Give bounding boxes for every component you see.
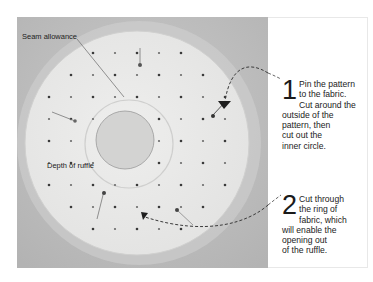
pin-dot — [224, 184, 227, 187]
pin-dot — [136, 184, 139, 187]
step-2-line: Cut through — [299, 194, 344, 204]
pin-dot — [202, 74, 205, 77]
pin-icon — [175, 208, 179, 212]
pin-dot — [158, 184, 160, 186]
pin-dot — [114, 184, 116, 186]
step-2-line: of the ruffle. — [282, 245, 327, 255]
step-1-line: inner circle. — [282, 141, 326, 151]
pin-dot — [158, 96, 160, 98]
step-1-line: cut out the — [282, 130, 322, 140]
pin-dot — [180, 140, 183, 143]
pin-dot — [180, 162, 182, 164]
pin-dot — [158, 162, 161, 165]
pin-dot — [158, 118, 161, 121]
pin-dot — [158, 206, 161, 209]
step-1-line: to the fabric. — [299, 89, 346, 99]
pin-dot — [136, 228, 139, 231]
pin-dot — [92, 206, 94, 208]
pin-icon — [138, 63, 142, 67]
pin-dot — [136, 96, 139, 99]
pin-dot — [202, 206, 205, 209]
seam-allowance-label: Seam allowance — [22, 32, 77, 41]
pin-icon — [102, 191, 106, 195]
pin-dot — [180, 74, 182, 76]
step-1-line: pattern, then — [282, 120, 330, 130]
pin-dot — [114, 74, 117, 77]
step-2-line: will enable the — [282, 225, 336, 235]
instruction-figure: Seam allowance Depth of ruffle 1 Pin the… — [17, 17, 369, 268]
pin-dot — [180, 228, 183, 231]
pin-dot — [92, 184, 95, 187]
pin-dot — [92, 228, 95, 231]
pin-dot — [224, 118, 226, 120]
step-2: 2 Cut through the ring of fabric, which … — [282, 194, 368, 256]
pin-dot — [48, 96, 51, 99]
pattern-illustration — [17, 17, 268, 268]
pin-dot — [180, 184, 183, 187]
step-2-line: opening out — [282, 235, 327, 245]
pin-dot — [224, 140, 227, 143]
step-2-line: fabric, which — [299, 215, 347, 225]
pin-dot — [136, 206, 138, 208]
pin-dot — [70, 140, 72, 142]
pin-dot — [202, 96, 204, 98]
pin-dot — [202, 118, 205, 121]
pin-dot — [180, 96, 183, 99]
pin-dot — [136, 74, 138, 76]
pin-dot — [180, 118, 182, 120]
pin-dot — [114, 96, 116, 98]
pin-dot — [48, 184, 51, 187]
pin-dot — [70, 206, 73, 209]
pin-dot — [48, 118, 50, 120]
pin-dot — [202, 140, 204, 142]
pin-dot — [92, 96, 95, 99]
pin-dot — [92, 118, 94, 120]
pin-dot — [224, 162, 226, 164]
pin-dot — [158, 74, 161, 77]
step-1-line: Cut around the — [299, 100, 356, 110]
pin-icon — [211, 114, 215, 118]
pin-dot — [70, 74, 73, 77]
pin-dot — [114, 228, 116, 230]
pin-dot — [92, 74, 94, 76]
step-2-line: the ring of — [299, 204, 337, 214]
pin-dot — [202, 184, 204, 186]
pin-dot — [136, 52, 139, 55]
pin-dot — [114, 206, 117, 209]
pin-dot — [114, 52, 116, 54]
pin-dot — [70, 184, 72, 186]
pin-dot — [158, 228, 160, 230]
inner-circle — [96, 111, 154, 169]
step-1: 1 Pin the pattern to the fabric. Cut aro… — [282, 79, 368, 151]
depth-of-ruffle-label: Depth of ruffle — [47, 161, 94, 170]
step-1-line: outside of the — [282, 110, 334, 120]
pin-dot — [158, 140, 160, 142]
pin-dot — [70, 96, 72, 98]
pin-dot — [48, 140, 51, 143]
step-2-number: 2 — [282, 195, 297, 215]
pattern-photo: Seam allowance Depth of ruffle — [17, 17, 268, 268]
pin-dot — [92, 52, 95, 55]
pin-icon — [73, 119, 77, 123]
step-1-number: 1 — [282, 80, 297, 100]
pin-dot — [180, 52, 183, 55]
pin-dot — [180, 206, 182, 208]
pin-dot — [202, 162, 205, 165]
step-1-line: Pin the pattern — [299, 79, 355, 89]
pin-dot — [158, 52, 160, 54]
